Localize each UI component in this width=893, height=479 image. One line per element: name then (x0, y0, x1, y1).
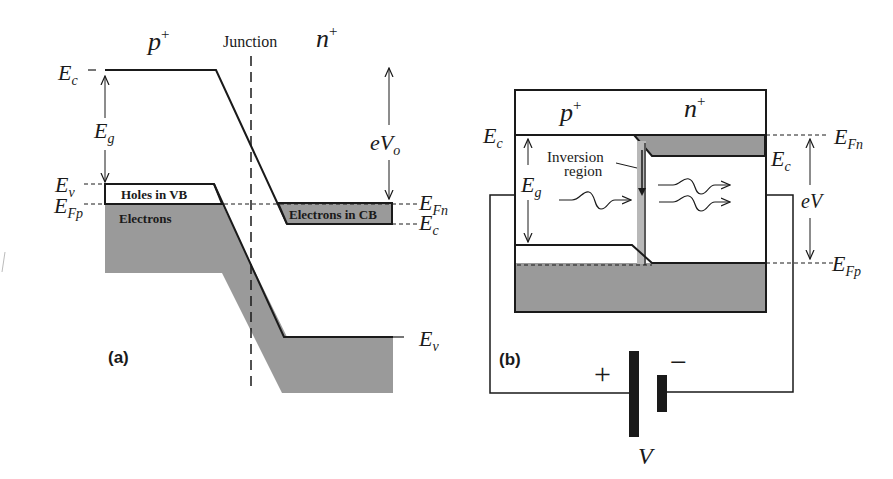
panel-b-label: (b) (499, 350, 521, 369)
ec-right-label: Ec (770, 146, 791, 174)
battery-voltage-label: V (638, 443, 655, 469)
inversion-label-line2: region (564, 163, 603, 179)
panel-b: + − V p+ (482, 90, 863, 469)
battery-minus-sign: − (670, 345, 687, 378)
efn-label: EFn (833, 124, 863, 152)
efp-label: EFp (831, 251, 861, 279)
n-plus-label: n+ (316, 23, 337, 53)
ev-right-label: Ev (418, 326, 439, 354)
ev-bias-label: eV (801, 190, 825, 212)
panel-a-label: (a) (108, 348, 129, 367)
tunnel-diode-band-diagram: p+ Junction n+ Ec Eg Ev EFp Holes in VB … (0, 0, 893, 479)
panel-a: p+ Junction n+ Ec Eg Ev EFp Holes in VB … (2, 23, 448, 393)
battery-positive-plate (629, 351, 639, 437)
battery-plus-sign: + (594, 357, 611, 390)
ec-left-label: Ec (57, 60, 78, 88)
scan-artifact (2, 252, 5, 272)
battery-negative-plate (657, 375, 667, 412)
electrons-in-cb-label: Electrons in CB (289, 207, 377, 222)
junction-label: Junction (223, 33, 277, 50)
ec-left-label: Ec (482, 123, 503, 151)
p-plus-label: p+ (146, 26, 169, 56)
evo-label: eVo (370, 130, 400, 158)
eg-label: Eg (93, 118, 114, 146)
n-conduction-fill (634, 135, 765, 156)
electrons-label: Electrons (119, 211, 171, 226)
valence-fill (516, 263, 765, 311)
valence-band-fill (105, 204, 393, 393)
holes-in-vb-label: Holes in VB (121, 187, 188, 202)
